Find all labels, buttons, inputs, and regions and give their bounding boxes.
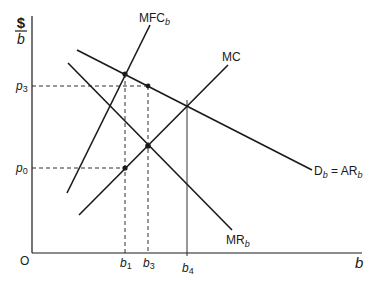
x-axis-label: b xyxy=(355,254,363,271)
p3-label: p3 xyxy=(15,79,28,94)
point-p0-b1 xyxy=(122,165,127,170)
p0-label: p0 xyxy=(15,161,28,176)
b1-label: b1 xyxy=(120,256,132,271)
origin-label: O xyxy=(20,254,29,268)
demand-curve xyxy=(77,50,312,170)
demand-label: Db = ARb xyxy=(314,164,362,180)
mr-label: MRb xyxy=(226,233,250,249)
b4-label: b4 xyxy=(182,261,194,276)
b3-label: b3 xyxy=(143,256,155,271)
mfc-label: MFCb xyxy=(139,11,170,27)
point-p3-b3 xyxy=(146,84,151,89)
mc-curve xyxy=(79,65,228,215)
mc-label: MC xyxy=(222,50,241,64)
point-mr-mc xyxy=(145,143,151,149)
point-mfc-demand xyxy=(122,71,127,76)
y-axis-label-bottom: b xyxy=(17,31,25,47)
mfc-curve xyxy=(67,25,150,193)
y-axis-label-top: $ xyxy=(17,14,26,31)
diagram-canvas: $ b O b MFCb MC Db = ARb MRb p3 p0 b1 b3… xyxy=(0,0,377,282)
